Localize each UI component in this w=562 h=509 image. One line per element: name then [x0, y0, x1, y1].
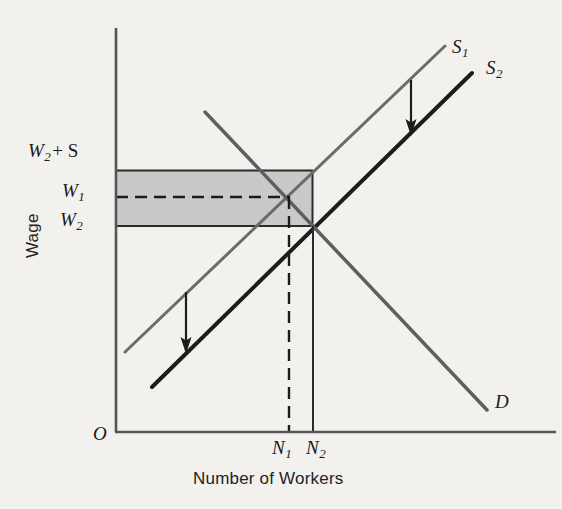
diagram-canvas	[0, 0, 562, 509]
curve-label-s1: S1	[452, 37, 469, 59]
demand-curve-d	[205, 112, 487, 410]
n2-sub: 2	[319, 446, 326, 461]
n1-main: N	[272, 437, 285, 458]
w1-sub: 1	[78, 189, 85, 204]
w2-plus-s-sub: 2	[44, 149, 51, 164]
w2-plus-s-main: W	[28, 140, 44, 161]
s2-sub: 2	[496, 66, 503, 81]
x-tick-label-n2: N2	[306, 438, 326, 460]
curve-label-d: D	[495, 392, 509, 411]
x-axis-title: Number of Workers	[193, 470, 343, 487]
y-axis-title: Wage	[24, 213, 41, 258]
w1-main: W	[62, 180, 78, 201]
w2-plus-s-suffix: + S	[51, 140, 80, 161]
s2-main: S	[486, 57, 496, 78]
lower-shift-arrow	[181, 292, 192, 354]
n1-sub: 1	[285, 446, 292, 461]
n2-main: N	[306, 437, 319, 458]
y-tick-label-w2: W2	[60, 210, 83, 232]
x-tick-label-n1: N1	[272, 438, 292, 460]
curve-label-s2: S2	[486, 58, 503, 80]
y-tick-label-w2-plus-s: W2+ S	[28, 141, 80, 163]
s1-sub: 1	[462, 45, 469, 60]
origin-label: O	[93, 424, 107, 443]
y-tick-label-w1: W1	[62, 181, 85, 203]
s1-main: S	[452, 36, 462, 57]
w2-sub: 2	[76, 218, 83, 233]
w2-main: W	[60, 209, 76, 230]
labor-market-subsidy-diagram: W2+ S W1 W2 O S1 S2 D N1 N2 Wage Number …	[0, 0, 562, 509]
